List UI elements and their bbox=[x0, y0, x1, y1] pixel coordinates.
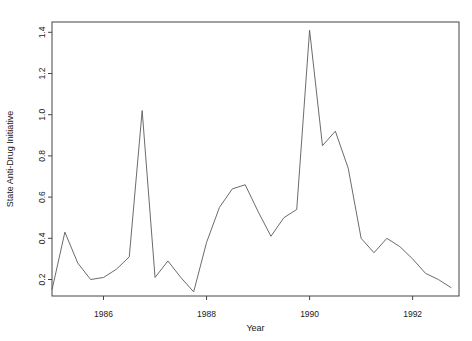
y-axis-title: State Anti-Drug Initiative bbox=[5, 111, 15, 208]
x-axis-ticks bbox=[104, 296, 413, 300]
plot-frame bbox=[52, 22, 459, 296]
y-tick-label: 0.2 bbox=[37, 273, 47, 285]
y-axis-tick-labels: 0.20.40.60.81.01.21.4 bbox=[37, 26, 47, 285]
x-axis-tick-labels: 1986198819901992 bbox=[94, 309, 422, 319]
y-tick-label: 1.0 bbox=[37, 109, 47, 121]
y-tick-label: 0.8 bbox=[37, 150, 47, 162]
y-tick-label: 1.2 bbox=[37, 67, 47, 79]
y-tick-label: 1.4 bbox=[37, 26, 47, 38]
x-tick-label: 1988 bbox=[197, 309, 216, 319]
y-axis-ticks bbox=[48, 32, 52, 279]
x-tick-label: 1992 bbox=[403, 309, 422, 319]
data-series-line bbox=[52, 30, 451, 292]
x-tick-label: 1986 bbox=[94, 309, 113, 319]
y-tick-label: 0.4 bbox=[37, 232, 47, 244]
x-axis-title: Year bbox=[246, 323, 264, 333]
y-tick-label: 0.6 bbox=[37, 191, 47, 203]
x-tick-label: 1990 bbox=[300, 309, 319, 319]
chart-container: 0.20.40.60.81.01.21.4 1986198819901992 Y… bbox=[0, 0, 472, 341]
line-chart: 0.20.40.60.81.01.21.4 1986198819901992 Y… bbox=[0, 0, 472, 341]
